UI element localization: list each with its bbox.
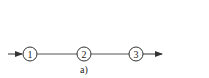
node-1: 1: [23, 47, 37, 61]
node-3-label: 3: [134, 49, 139, 60]
node-2: 2: [77, 47, 91, 61]
node-1-label: 1: [28, 49, 33, 60]
chain-diagram: 1 2 3 a): [0, 0, 209, 78]
node-2-label: 2: [82, 49, 87, 60]
node-3: 3: [129, 47, 143, 61]
diagram-caption: a): [80, 64, 88, 76]
